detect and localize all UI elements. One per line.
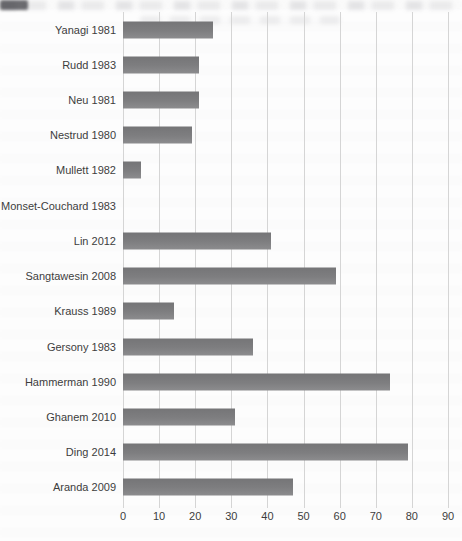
x-tick-label: 20: [189, 509, 201, 523]
chart-row: [123, 470, 448, 505]
category-label: Ding 2014: [0, 435, 116, 470]
category-label: Yanagi 1981: [0, 12, 116, 47]
chart-row: [123, 364, 448, 399]
x-tick-label: 60: [334, 509, 346, 523]
category-label: Rudd 1983: [0, 47, 116, 82]
category-label: Mullett 1982: [0, 153, 116, 188]
x-tick-label: 50: [297, 509, 309, 523]
x-tick-label: 30: [225, 509, 237, 523]
chart-row: [123, 82, 448, 117]
category-label: Sangtawesin 2008: [0, 259, 116, 294]
bar: [123, 127, 192, 144]
category-label: Ghanem 2010: [0, 399, 116, 434]
bar: [123, 232, 271, 249]
category-label: Neu 1981: [0, 82, 116, 117]
bar: [123, 56, 199, 73]
bar-chart: Yanagi 1981Rudd 1983Neu 1981Nestrud 1980…: [0, 0, 462, 541]
x-tick-label: 40: [261, 509, 273, 523]
category-labels: Yanagi 1981Rudd 1983Neu 1981Nestrud 1980…: [0, 12, 116, 505]
bar: [123, 21, 213, 38]
chart-row: [123, 399, 448, 434]
gridline-90: [448, 12, 449, 508]
bar: [123, 268, 336, 285]
bars-area: [123, 12, 448, 505]
chart-row: [123, 223, 448, 258]
chart-row: [123, 188, 448, 223]
bar: [123, 92, 199, 109]
bar: [123, 338, 253, 355]
chart-row: [123, 294, 448, 329]
chart-row: [123, 118, 448, 153]
x-tick-label: 80: [406, 509, 418, 523]
chart-row: [123, 12, 448, 47]
chart-row: [123, 329, 448, 364]
chart-row: [123, 435, 448, 470]
category-label: Krauss 1989: [0, 294, 116, 329]
bar: [123, 373, 390, 390]
category-label: Monset-Couchard 1983: [0, 188, 116, 223]
chart-row: [123, 47, 448, 82]
category-label: Gersony 1983: [0, 329, 116, 364]
x-tick-label: 0: [120, 509, 126, 523]
scanned-page: Yanagi 1981Rudd 1983Neu 1981Nestrud 1980…: [0, 0, 462, 541]
bar: [123, 303, 174, 320]
bar: [123, 409, 235, 426]
chart-row: [123, 259, 448, 294]
chart-row: [123, 153, 448, 188]
category-label: Lin 2012: [0, 223, 116, 258]
x-tick-label: 90: [442, 509, 454, 523]
category-label: Hammerman 1990: [0, 364, 116, 399]
x-tick-label: 10: [153, 509, 165, 523]
x-axis: 0102030405060708090: [123, 509, 448, 527]
category-label: Nestrud 1980: [0, 118, 116, 153]
bar: [123, 479, 293, 496]
bar: [123, 162, 141, 179]
x-tick-label: 70: [370, 509, 382, 523]
category-label: Aranda 2009: [0, 470, 116, 505]
bar: [123, 444, 408, 461]
